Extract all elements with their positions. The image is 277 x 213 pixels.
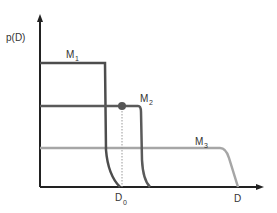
svg-text:D: D — [115, 192, 122, 203]
label-m1: M 1 — [66, 49, 79, 62]
svg-text:1: 1 — [75, 55, 79, 62]
x-axis-arrow-icon — [256, 184, 264, 190]
svg-text:M: M — [140, 93, 148, 104]
svg-text:M: M — [66, 49, 74, 60]
marker-point — [118, 102, 126, 110]
curve-m3 — [40, 148, 238, 187]
x-axis-label: D — [234, 193, 241, 204]
y-axis — [37, 14, 43, 187]
svg-text:M: M — [195, 136, 203, 147]
label-m2: M 2 — [140, 93, 153, 106]
curve-m1 — [40, 63, 120, 187]
svg-text:2: 2 — [149, 99, 153, 106]
y-axis-arrow-icon — [37, 14, 43, 22]
curve-m2 — [40, 106, 150, 187]
probability-distribution-diagram: p(D) M 1 M 2 M 3 D 0 D — [0, 0, 277, 213]
svg-text:3: 3 — [204, 142, 208, 149]
label-d0: D 0 — [115, 192, 127, 206]
x-axis — [40, 184, 264, 190]
svg-text:0: 0 — [123, 199, 127, 206]
y-axis-label: p(D) — [6, 32, 25, 43]
